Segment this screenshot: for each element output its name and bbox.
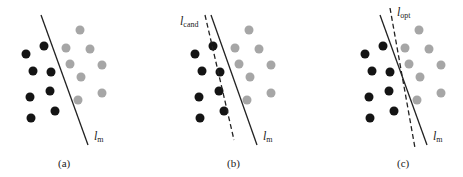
label-lopt: lopt <box>397 5 411 20</box>
label-lcand: lcand <box>180 14 198 29</box>
black-point <box>365 93 374 102</box>
gray-point <box>76 26 85 35</box>
gray-point <box>255 45 264 54</box>
black-point <box>390 107 399 116</box>
gray-point <box>437 61 446 70</box>
gray-point <box>235 60 244 69</box>
black-point <box>385 87 394 96</box>
gray-point <box>413 96 422 105</box>
black-point <box>195 93 204 102</box>
gray-point <box>74 96 83 105</box>
gray-point <box>425 45 434 54</box>
dashed-line-lcand <box>205 15 234 140</box>
gray-point <box>405 60 414 69</box>
label-lm: lm <box>263 129 273 144</box>
gray-point <box>437 89 446 98</box>
gray-point <box>77 73 86 82</box>
gray-point <box>415 26 424 35</box>
label-lm: lm <box>433 129 443 144</box>
black-point <box>368 67 377 76</box>
black-point <box>29 67 38 76</box>
gray-point <box>98 89 107 98</box>
black-point <box>40 42 49 51</box>
gray-point <box>62 44 71 53</box>
gray-point <box>246 73 255 82</box>
label-lm: lm <box>94 129 104 144</box>
black-point <box>216 68 225 77</box>
caption-c: (c) <box>397 157 410 170</box>
gray-point <box>267 61 276 70</box>
black-point <box>198 67 207 76</box>
gray-point <box>66 60 75 69</box>
black-point <box>51 107 60 116</box>
gray-point <box>267 89 276 98</box>
gray-point <box>231 44 240 53</box>
gray-point <box>86 45 95 54</box>
black-point <box>191 50 200 59</box>
black-point <box>379 42 388 51</box>
black-point <box>366 114 375 123</box>
black-point <box>27 114 36 123</box>
panel-a: lm (a) <box>22 15 107 170</box>
black-point <box>196 114 205 123</box>
gray-point <box>401 44 410 53</box>
black-point <box>22 50 31 59</box>
gray-point <box>98 61 107 70</box>
panel-b: lm lcand (b) <box>180 14 276 170</box>
caption-b: (b) <box>227 157 240 170</box>
black-point <box>47 68 56 77</box>
gray-point <box>416 73 425 82</box>
figure: lm (a) lm lcand (b) lm lopt (c) <box>0 0 463 177</box>
black-point <box>46 87 55 96</box>
caption-a: (a) <box>58 157 71 170</box>
panel-c: lm lopt (c) <box>361 5 446 170</box>
black-point <box>386 68 395 77</box>
gray-point <box>243 96 252 105</box>
gray-point <box>245 26 254 35</box>
black-point <box>26 93 35 102</box>
black-point <box>361 50 370 59</box>
